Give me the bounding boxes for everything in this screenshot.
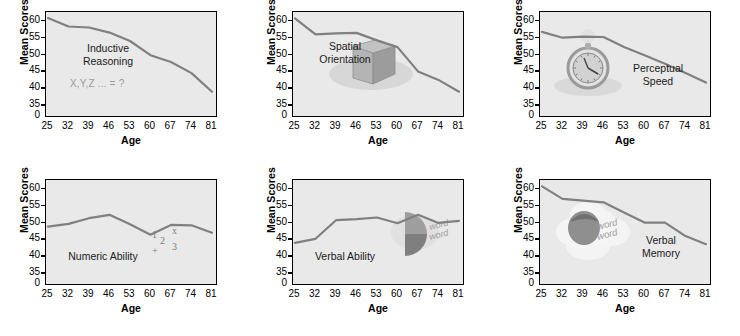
panel-caption: Spatial Orientation (301, 40, 389, 65)
y-tick-label: 35 (14, 267, 40, 277)
y-tick-label: 50 (261, 49, 287, 59)
y-tick-label: 60 (261, 15, 287, 25)
panel-caption: Verbal Memory (622, 234, 700, 259)
chart-panel: Mean ScoresAge35404550556002532394653606… (494, 168, 740, 336)
chart-panel: Mean ScoresAge35404550556002532394653606… (247, 168, 493, 336)
y-tick-label-zero: 0 (508, 110, 534, 120)
x-tick-label: 81 (693, 120, 717, 131)
y-tick-label: 50 (14, 217, 40, 227)
y-tick-label: 60 (14, 15, 40, 25)
panel-caption: Perceptual Speed (614, 62, 702, 87)
y-tick-label: 40 (14, 82, 40, 92)
y-tick-label: 35 (261, 267, 287, 277)
panel-caption: Verbal Ability (295, 250, 395, 263)
panel-caption: Numeric Ability (48, 250, 158, 263)
plot-area: wordword (539, 179, 711, 285)
y-tick-label: 50 (508, 49, 534, 59)
x-tick-label: 81 (199, 120, 223, 131)
y-tick-label: 50 (261, 217, 287, 227)
y-tick-label: 45 (261, 65, 287, 75)
stopwatch-icon (554, 29, 622, 96)
y-tick-label: 35 (508, 99, 534, 109)
series-polyline (48, 215, 212, 235)
y-tick-label: 55 (261, 200, 287, 210)
y-tick-label: 60 (261, 183, 287, 193)
y-tick-label: 45 (508, 65, 534, 75)
y-tick-label: 40 (261, 250, 287, 260)
data-series-line: 123x+ (46, 180, 217, 285)
speech-word-icon: wordword (391, 212, 450, 256)
y-tick-label-zero: 0 (508, 278, 534, 288)
y-tick-label: 45 (14, 233, 40, 243)
y-tick-label: 55 (508, 200, 534, 210)
y-tick-label: 45 (508, 233, 534, 243)
x-tick-label: 81 (199, 288, 223, 299)
y-tick-label: 60 (508, 15, 534, 25)
y-tick-label: 45 (14, 65, 40, 75)
figure-grid: Mean ScoresAge35404550556002532394653606… (0, 0, 740, 336)
y-tick-label-zero: 0 (261, 110, 287, 120)
x-tick-label: 81 (693, 288, 717, 299)
y-tick-label: 55 (261, 32, 287, 42)
data-series-line: wordword (540, 180, 711, 285)
y-tick-label: 55 (14, 32, 40, 42)
chart-panel: Mean ScoresAge35404550556002532394653606… (0, 168, 246, 336)
y-tick-label: 55 (508, 32, 534, 42)
y-tick-label: 40 (14, 250, 40, 260)
y-tick-label-zero: 0 (14, 278, 40, 288)
y-tick-label: 35 (14, 99, 40, 109)
y-tick-label-zero: 0 (14, 110, 40, 120)
plot-area: wordword (292, 179, 464, 285)
y-tick-label: 50 (14, 49, 40, 59)
x-tick-label: 81 (446, 288, 470, 299)
x-tick-label: 81 (446, 120, 470, 131)
y-tick-label: 40 (508, 82, 534, 92)
plot-area: 123x+ (45, 179, 217, 285)
y-tick-label: 60 (508, 183, 534, 193)
y-tick-label: 45 (261, 233, 287, 243)
y-tick-label: 60 (14, 183, 40, 193)
y-tick-label: 50 (508, 217, 534, 227)
chart-panel: Mean ScoresAge35404550556002532394653606… (494, 0, 740, 168)
panel-caption: Inductive Reasoning (62, 42, 154, 67)
y-tick-label-zero: 0 (261, 278, 287, 288)
chart-panel: Mean ScoresAge35404550556002532394653606… (0, 0, 246, 168)
svg-text:3: 3 (172, 241, 177, 252)
svg-text:x: x (172, 225, 177, 236)
data-series-line: wordword (293, 180, 464, 285)
panel-annotation: X,Y,Z ... = ? (70, 78, 124, 89)
y-tick-label: 40 (261, 82, 287, 92)
y-tick-label: 35 (508, 267, 534, 277)
y-tick-label: 35 (261, 99, 287, 109)
y-tick-label: 55 (14, 200, 40, 210)
chart-panel: Mean ScoresAge35404550556002532394653606… (247, 0, 493, 168)
svg-text:2: 2 (160, 235, 165, 246)
y-tick-label: 40 (508, 250, 534, 260)
